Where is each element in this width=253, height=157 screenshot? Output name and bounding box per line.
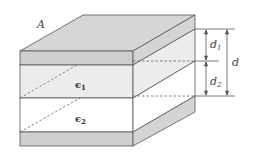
area-label: A — [36, 18, 45, 31]
d2-label: d2 — [210, 75, 222, 89]
d-total-label: d — [232, 56, 239, 69]
capacitor-diagram: A ϵ1 ϵ2 d1 d2 d — [0, 0, 253, 157]
top-plate-front-face — [20, 51, 133, 65]
bottom-plate-front-face — [20, 132, 133, 146]
d1-label: d1 — [210, 38, 222, 52]
